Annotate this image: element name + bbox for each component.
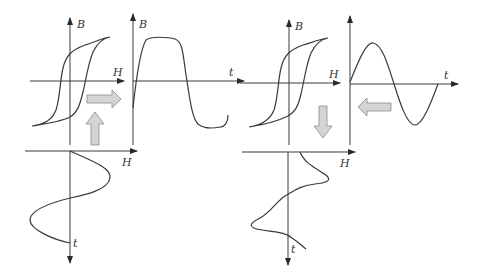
b-axis-label: B xyxy=(138,18,147,31)
arrow-right-icon xyxy=(87,90,121,108)
b-waveform xyxy=(133,37,228,128)
b-axis-label: B xyxy=(76,18,85,31)
t-axis-label: t xyxy=(229,66,234,79)
arrow-left-icon xyxy=(358,98,391,116)
h-axis-label: H xyxy=(112,66,123,79)
h-axis-label: H xyxy=(339,157,350,170)
left-b-waveform-plot: B t xyxy=(133,14,244,145)
h-axis-label: H xyxy=(328,68,339,81)
arrow-up-icon xyxy=(86,112,104,145)
arrow-down-icon xyxy=(314,106,332,138)
hysteresis-diagram: B H B t H t B H t H t xyxy=(0,0,480,277)
h-axis-label: H xyxy=(121,156,132,169)
t-axis-label: t xyxy=(444,69,449,82)
h-waveform xyxy=(251,152,328,249)
left-h-waveform-plot: H t xyxy=(25,151,137,263)
right-b-waveform-plot: t xyxy=(350,16,458,145)
t-axis-label: t xyxy=(73,237,78,250)
t-axis-label: t xyxy=(291,243,296,256)
left-hysteresis-plot: B H xyxy=(30,18,124,145)
right-h-waveform-plot: H t xyxy=(242,152,355,265)
b-axis-label: B xyxy=(294,20,303,33)
